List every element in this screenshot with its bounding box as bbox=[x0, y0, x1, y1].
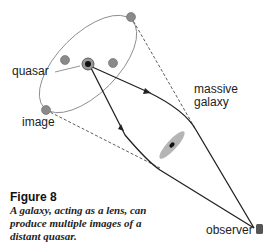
observer-label: observer bbox=[206, 224, 253, 237]
image-dot bbox=[61, 56, 70, 65]
cone-line-lower bbox=[46, 110, 160, 168]
figure-title: Figure 8 bbox=[10, 190, 57, 204]
cone-line-upper bbox=[131, 17, 196, 130]
image-dot bbox=[127, 13, 136, 22]
image-label: image bbox=[22, 116, 55, 129]
quasar-label: quasar bbox=[12, 65, 49, 78]
figure-caption: A galaxy, acting as a lens, can produce … bbox=[10, 204, 160, 243]
arrow-lower bbox=[118, 124, 124, 131]
massive-galaxy-label-2: galaxy bbox=[194, 96, 229, 109]
arrow-upper bbox=[143, 88, 151, 94]
quasar-core bbox=[85, 61, 91, 67]
image-dot bbox=[109, 59, 118, 68]
quasar-label-pointer bbox=[55, 66, 80, 72]
observer-icon bbox=[256, 224, 263, 234]
image-dot bbox=[42, 106, 51, 115]
